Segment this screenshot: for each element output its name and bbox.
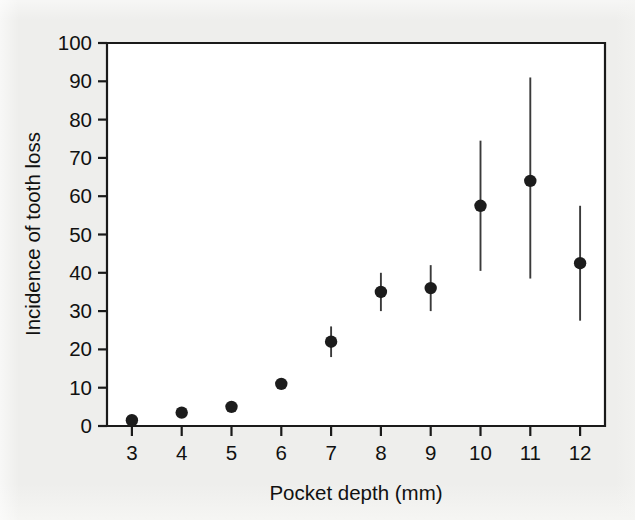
x-tick-label: 12 [569, 441, 592, 464]
x-tick-label: 9 [425, 441, 436, 464]
data-point-marker [574, 257, 586, 269]
y-tick-label: 30 [69, 299, 92, 322]
x-tick-label: 6 [276, 441, 287, 464]
data-point-marker [524, 175, 536, 187]
y-axis-title: Incidence of tooth loss [21, 132, 44, 336]
figure-panel: 0102030405060708090100 3456789101112 Poc… [0, 0, 635, 520]
y-tick-label: 70 [69, 146, 92, 169]
y-tick-label: 80 [69, 108, 92, 131]
x-tick-label: 8 [375, 441, 386, 464]
data-point-marker [474, 200, 486, 212]
data-point-marker [126, 414, 138, 426]
data-point-marker [275, 378, 287, 390]
data-point-marker [176, 406, 188, 418]
y-tick-label: 0 [81, 414, 92, 437]
x-tick-label: 10 [469, 441, 492, 464]
x-tick-label: 7 [325, 441, 336, 464]
data-point-marker [375, 286, 387, 298]
data-point-marker [425, 282, 437, 294]
x-axis-tick-labels: 3456789101112 [126, 441, 591, 464]
data-point-marker [325, 336, 337, 348]
x-tick-label: 11 [520, 441, 541, 464]
y-tick-label: 100 [58, 31, 92, 54]
y-tick-label: 20 [69, 337, 92, 360]
y-tick-label: 40 [69, 261, 92, 284]
y-tick-label: 90 [69, 69, 92, 92]
y-tick-label: 50 [69, 223, 92, 246]
x-axis-title: Pocket depth (mm) [269, 481, 442, 504]
data-point-marker [225, 401, 237, 413]
x-tick-label: 3 [126, 441, 137, 464]
y-tick-label: 10 [69, 376, 92, 399]
y-axis-tick-labels: 0102030405060708090100 [58, 31, 92, 437]
scatter-plot-with-error-bars: 0102030405060708090100 3456789101112 Poc… [0, 0, 635, 520]
y-axis-ticks [98, 43, 107, 426]
x-tick-label: 5 [226, 441, 237, 464]
y-tick-label: 60 [69, 184, 92, 207]
x-axis-ticks [132, 426, 580, 436]
x-tick-label: 4 [176, 441, 187, 464]
